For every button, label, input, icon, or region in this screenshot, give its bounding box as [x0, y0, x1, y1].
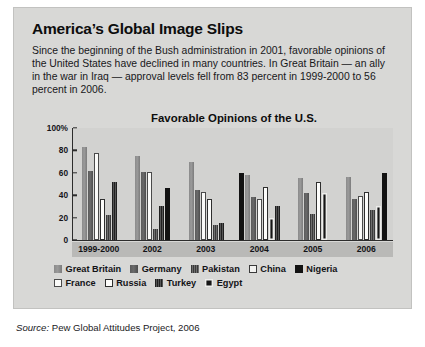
bar-russia: [263, 187, 268, 240]
legend-label: Egypt: [217, 278, 243, 288]
bar-germany: [304, 193, 309, 240]
legend-item-nigeria[interactable]: Nigeria: [295, 264, 338, 274]
x-axis-labels: 1999-200020022003200420052006: [72, 242, 393, 257]
bar-russia: [316, 182, 321, 240]
legend-label: Russia: [116, 278, 146, 288]
legend-item-gb[interactable]: Great Britain: [54, 264, 121, 274]
legend-swatch-china-icon: [249, 265, 257, 273]
bar-group: [180, 128, 233, 240]
legend-item-turkey[interactable]: Turkey: [155, 278, 196, 288]
bar-france: [94, 153, 99, 240]
bar-pakistan: [370, 210, 375, 240]
bar-egypt: [269, 218, 274, 240]
bar-group: [233, 128, 286, 240]
legend-swatch-russia-icon: [105, 279, 113, 287]
bar-turkey: [275, 206, 280, 240]
bar-gb: [135, 156, 140, 240]
legend-label: Nigeria: [306, 264, 337, 274]
x-axis-label: 2002: [126, 242, 180, 257]
legend-swatch-pakistan-icon: [191, 265, 199, 273]
bar-egypt: [322, 193, 327, 240]
bar-russia: [207, 199, 212, 240]
bar-russia: [100, 199, 105, 240]
bar-france: [257, 199, 262, 240]
bar-russia: [364, 192, 369, 240]
y-axis-tick: 100%: [47, 123, 73, 133]
y-axis-tick: 20: [59, 213, 73, 223]
legend-swatch-turkey-icon: [155, 279, 163, 287]
bar-germany: [141, 172, 146, 240]
bar-france: [201, 192, 206, 240]
bar-gb: [189, 162, 194, 240]
y-axis-tick: 40: [59, 190, 73, 200]
bar-group: [73, 128, 126, 240]
source-text: Pew Global Attitudes Project, 2006: [49, 322, 199, 333]
legend-row-primary: Great BritainGermanyPakistanChinaNigeria: [32, 262, 394, 276]
bar-groups: [73, 128, 393, 240]
page-title: America’s Global Image Slips: [32, 20, 243, 38]
legend-item-russia[interactable]: Russia: [105, 278, 147, 288]
bar-gb: [245, 175, 250, 240]
x-axis-label: 2006: [340, 242, 394, 257]
bar-pakistan: [310, 214, 315, 240]
bar-france: [147, 172, 152, 240]
legend-label: Germany: [142, 264, 182, 274]
bar-pakistan: [213, 225, 218, 240]
bar-turkey: [159, 206, 164, 240]
y-axis-tick: 60: [59, 168, 73, 178]
chart-title: Favorable Opinions of the U.S.: [94, 112, 374, 124]
bar-group: [286, 128, 339, 240]
bar-gb: [346, 177, 351, 240]
bar-nigeria: [382, 173, 387, 240]
x-axis-label: 2004: [233, 242, 287, 257]
bar-turkey: [219, 223, 224, 240]
legend-swatch-germany-icon: [130, 265, 138, 273]
legend-label: Turkey: [167, 278, 196, 288]
legend-item-egypt[interactable]: Egypt: [205, 278, 242, 288]
x-axis-label: 1999-2000: [72, 242, 126, 257]
source-note: Source: Pew Global Attitudes Project, 20…: [16, 322, 199, 333]
bar-nigeria: [239, 173, 244, 240]
infographic-card: America’s Global Image Slips Since the b…: [14, 8, 411, 308]
bar-germany: [88, 171, 93, 240]
legend-item-france[interactable]: France: [54, 278, 96, 288]
legend-label: France: [66, 278, 96, 288]
x-axis-label: 2003: [179, 242, 233, 257]
legend-swatch-egypt-icon: [205, 279, 213, 287]
bar-germany: [352, 199, 357, 240]
bar-group: [126, 128, 179, 240]
bar-gb: [82, 147, 87, 240]
bar-egypt: [376, 206, 381, 240]
legend-swatch-france-icon: [54, 279, 62, 287]
chart-legend: Great BritainGermanyPakistanChinaNigeria…: [32, 262, 394, 290]
legend-swatch-gb-icon: [54, 265, 62, 273]
chart-plot-area: 100%806040200: [72, 128, 393, 241]
bar-france: [358, 196, 363, 240]
legend-item-china[interactable]: China: [249, 264, 286, 274]
bar-gb: [298, 178, 303, 240]
bar-chart: Favorable Opinions of the U.S. 100%80604…: [32, 112, 394, 272]
legend-item-pakistan[interactable]: Pakistan: [191, 264, 240, 274]
x-axis-label: 2005: [286, 242, 340, 257]
bar-germany: [251, 197, 256, 240]
legend-swatch-nigeria-icon: [295, 265, 303, 273]
y-axis-tick: 80: [59, 145, 73, 155]
legend-item-germany[interactable]: Germany: [130, 264, 181, 274]
legend-label: China: [260, 264, 286, 274]
bar-turkey: [112, 182, 117, 240]
legend-row-secondary: FranceRussiaTurkeyEgypt: [32, 276, 394, 290]
description-paragraph: Since the beginning of the Bush administ…: [32, 44, 390, 96]
bar-pakistan: [106, 215, 111, 240]
legend-label: Pakistan: [202, 264, 240, 274]
source-label: Source:: [16, 322, 49, 333]
legend-label: Great Britain: [66, 264, 122, 274]
bar-nigeria: [165, 188, 170, 240]
bar-germany: [195, 190, 200, 240]
bar-group: [340, 128, 393, 240]
bar-pakistan: [153, 229, 158, 240]
